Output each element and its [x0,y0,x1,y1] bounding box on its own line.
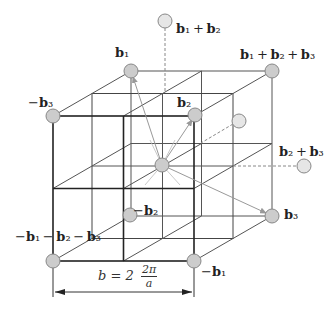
label-minus-b1-b2-b3: −b₁ − b₂ − b₃ [15,230,101,243]
label-b1-plus-b2-plus-b3: b₁ + b₂ + b₃ [240,48,315,61]
node-minus-b1 [187,254,201,268]
dimension-label: b = 2 2π a [98,263,157,290]
node-b3 [265,209,279,223]
node-center [155,158,169,172]
label-minus-b1: −b₁ [201,265,226,278]
node-b1-plus-b2 [158,14,172,28]
node-minus-b3 [46,109,60,123]
label-b1-plus-b2: b₁ + b₂ [176,22,221,35]
node-b2 [188,108,202,122]
label-b1: b₁ [115,46,129,59]
label-b2: b₂ [177,96,191,109]
node-minus-b1-b2-b3 [46,254,60,268]
dimension-fraction: 2π a [141,263,157,290]
reciprocal-lattice-diagram: b₁ b₂ b₃ −b₁ −b₂ −b₃ b₁ + b₂ b₁ + b₂ + b… [0,0,327,315]
label-minus-b2: −b₂ [133,204,158,217]
dimension-lhs: b = 2 [98,268,134,283]
dimension-numerator: 2π [141,263,157,277]
label-b3: b₃ [284,208,298,221]
node-b1-plus-b2-plus-b3 [265,64,279,78]
label-minus-b3: −b₃ [28,96,53,109]
label-b2-plus-b3: b₂ + b₃ [279,145,324,158]
dimension-denominator: a [141,277,157,290]
node-b1 [124,64,138,78]
node-side [232,114,246,128]
node-b2-plus-b3 [297,159,311,173]
